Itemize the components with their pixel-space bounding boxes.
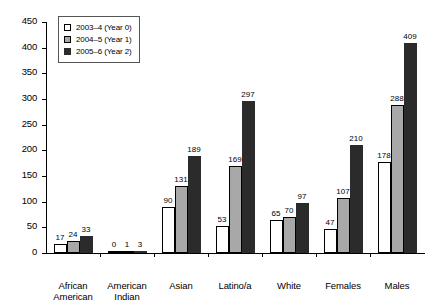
bar-group: 172433African American xyxy=(46,22,100,253)
y-axis-tick-label: 250 xyxy=(22,119,37,129)
y-axis-tick-label: 150 xyxy=(22,170,37,180)
y-axis-tick-label: 350 xyxy=(22,67,37,77)
bar-value-label: 107 xyxy=(336,188,349,196)
bar-value-label: 131 xyxy=(174,176,187,184)
x-axis-category-label: Females xyxy=(316,280,370,291)
bar-group: 657097White xyxy=(262,22,316,253)
bar-value-label: 90 xyxy=(164,197,173,205)
bar-value-label: 17 xyxy=(56,234,65,242)
x-axis-category-label: Males xyxy=(370,280,424,291)
bar-value-label: 210 xyxy=(349,135,362,143)
x-axis-tick-mark xyxy=(262,253,263,257)
y-axis-tick-label: 200 xyxy=(22,144,37,154)
bar-group-bars: 53169297 xyxy=(208,22,262,253)
bar: 1 xyxy=(121,251,134,253)
bar-group-bars: 90131189 xyxy=(154,22,208,253)
bar-group: 178288409Males xyxy=(370,22,424,253)
bar-value-label: 70 xyxy=(285,207,294,215)
bar: 17 xyxy=(54,244,67,253)
bar-group-bars: 657097 xyxy=(262,22,316,253)
bar: 169 xyxy=(229,166,242,253)
bar: 409 xyxy=(404,43,417,253)
bar: 3 xyxy=(134,251,147,253)
bar: 288 xyxy=(391,105,404,253)
x-axis-tick-mark xyxy=(154,253,155,257)
bar-group-bars: 172433 xyxy=(46,22,100,253)
bar-group: 47107210Females xyxy=(316,22,370,253)
y-axis-tick-label: 100 xyxy=(22,196,37,206)
bar-value-label: 409 xyxy=(403,33,416,41)
bar-value-label: 3 xyxy=(138,241,142,249)
bar-value-label: 24 xyxy=(69,231,78,239)
bar: 0 xyxy=(108,251,121,253)
bar-value-label: 1 xyxy=(125,241,129,249)
bar: 65 xyxy=(270,220,283,253)
bar: 210 xyxy=(350,145,363,253)
bar-value-label: 47 xyxy=(326,219,335,227)
x-axis-category-label: American Indian xyxy=(100,280,154,302)
bar-value-label: 169 xyxy=(228,156,241,164)
bar-value-label: 33 xyxy=(82,226,91,234)
bar-group-bars: 178288409 xyxy=(370,22,424,253)
x-axis-category-label: Asian xyxy=(154,280,208,291)
bar-value-label: 189 xyxy=(187,146,200,154)
bar-value-label: 65 xyxy=(272,210,281,218)
y-axis-tick-label: 0 xyxy=(32,247,37,257)
plot-area: 172433African American013American Indian… xyxy=(46,22,424,253)
bar: 70 xyxy=(283,217,296,253)
bar: 178 xyxy=(378,162,391,253)
bar-group-bars: 47107210 xyxy=(316,22,370,253)
bar-group: 013American Indian xyxy=(100,22,154,253)
bar: 47 xyxy=(324,229,337,253)
bar: 297 xyxy=(242,101,255,253)
x-axis-category-label: White xyxy=(262,280,316,291)
x-axis-category-label: African American xyxy=(46,280,100,302)
bar: 131 xyxy=(175,186,188,253)
x-axis-line xyxy=(46,253,425,254)
bar-value-label: 0 xyxy=(112,241,116,249)
y-axis-tick-label: 300 xyxy=(22,93,37,103)
bar-value-label: 297 xyxy=(241,91,254,99)
bar-group: 53169297Latino/a xyxy=(208,22,262,253)
bar: 97 xyxy=(296,203,309,253)
y-axis-tick-label: 450 xyxy=(22,16,37,26)
bar: 53 xyxy=(216,226,229,253)
y-axis-tick-label: 400 xyxy=(22,42,37,52)
y-axis-tick-label: 50 xyxy=(27,221,37,231)
x-axis-tick-mark xyxy=(370,253,371,257)
bar-value-label: 288 xyxy=(390,95,403,103)
bar: 189 xyxy=(188,156,201,253)
bar: 33 xyxy=(80,236,93,253)
x-axis-tick-mark xyxy=(316,253,317,257)
bar: 107 xyxy=(337,198,350,253)
x-axis-category-label: Latino/a xyxy=(208,280,262,291)
bar: 90 xyxy=(162,207,175,253)
bar-value-label: 53 xyxy=(218,216,227,224)
bar-value-label: 97 xyxy=(298,193,307,201)
bar-value-label: 178 xyxy=(377,152,390,160)
x-axis-tick-mark xyxy=(100,253,101,257)
x-axis-tick-mark xyxy=(208,253,209,257)
bar-group: 90131189Asian xyxy=(154,22,208,253)
bar-group-bars: 013 xyxy=(100,22,154,253)
bar: 24 xyxy=(67,241,80,253)
